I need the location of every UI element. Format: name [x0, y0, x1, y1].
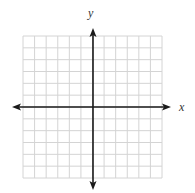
y-axis-label: y — [87, 6, 94, 20]
x-axis-label: x — [178, 100, 185, 114]
coordinate-plane: x y — [0, 0, 195, 193]
